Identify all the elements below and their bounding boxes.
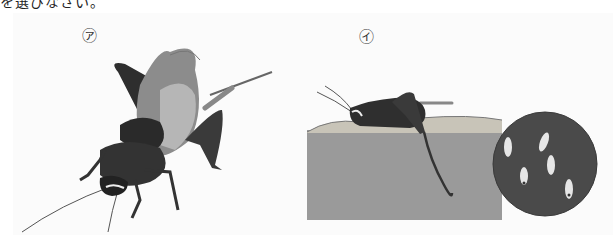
cricket-illustration-a xyxy=(22,49,272,232)
illustrations xyxy=(0,0,615,235)
ground-cross-section xyxy=(307,116,502,220)
egg-inset-magnified xyxy=(493,112,597,216)
